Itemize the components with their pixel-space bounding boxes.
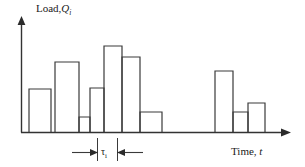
bar-1 — [29, 89, 51, 132]
bar-5 — [104, 46, 122, 132]
y-axis-arrowhead — [18, 16, 26, 25]
interval-arrow-right-head — [117, 149, 125, 156]
y-axis-label: Load,Qi — [36, 3, 71, 17]
bar-4 — [90, 88, 104, 132]
bar-6 — [122, 57, 140, 132]
x-axis-label-symbol: t — [259, 145, 262, 157]
interval-arrow-left-head — [90, 149, 98, 156]
axes-group — [18, 16, 291, 137]
interval-marker-group — [72, 138, 143, 161]
bar-7 — [140, 112, 162, 132]
y-axis-label-subscript: i — [69, 8, 71, 17]
bar-9 — [233, 112, 248, 132]
x-axis-label: Time, t — [231, 146, 262, 157]
interval-label: τi — [101, 147, 107, 160]
x-axis-arrowhead — [281, 128, 291, 136]
y-axis-label-text: Load, — [36, 2, 61, 14]
bar-10 — [248, 103, 265, 132]
bar-3 — [79, 117, 90, 132]
interval-label-subscript: i — [105, 152, 107, 160]
x-axis-label-text: Time, — [231, 145, 257, 157]
bar-8 — [215, 71, 233, 132]
bar-outline-group — [29, 46, 265, 132]
chart-canvas — [0, 0, 305, 167]
load-time-figure: Load,Qi Time, t τi — [0, 0, 305, 167]
bar-2 — [55, 62, 79, 132]
